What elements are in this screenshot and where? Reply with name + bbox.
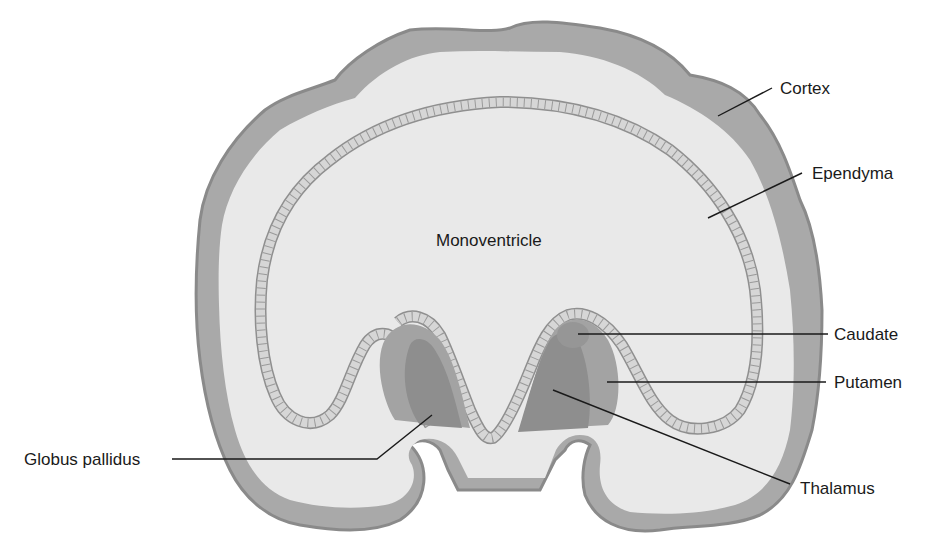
caudate-label: Caudate	[834, 325, 898, 344]
thalamus-label: Thalamus	[800, 479, 875, 498]
caudate	[557, 322, 589, 348]
white-matter	[219, 51, 794, 514]
globus-pallidus-label: Globus pallidus	[24, 450, 140, 469]
monoventricle-label: Monoventricle	[436, 231, 542, 250]
brain-section-diagram: Monoventricle Cortex Ependyma Caudate Pu…	[0, 0, 928, 553]
putamen-label: Putamen	[834, 373, 902, 392]
cortex-label: Cortex	[780, 79, 831, 98]
ependyma-label: Ependyma	[812, 164, 894, 183]
